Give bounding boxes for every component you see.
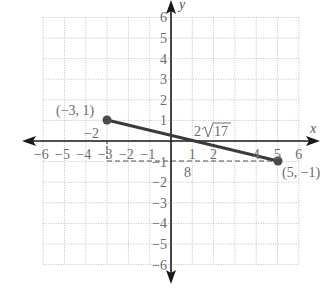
svg-text:2: 2 <box>210 147 217 162</box>
svg-text:−5: −5 <box>55 147 70 162</box>
svg-text:17: 17 <box>214 124 228 139</box>
svg-text:4: 4 <box>253 147 260 162</box>
svg-text:1: 1 <box>189 147 196 162</box>
y-axis-label: y <box>177 0 186 12</box>
svg-text:1: 1 <box>160 113 167 128</box>
svg-text:6: 6 <box>160 10 167 25</box>
svg-text:−4: −4 <box>76 147 91 162</box>
distance-label: 2 17 <box>194 123 231 139</box>
svg-text:2: 2 <box>160 93 167 108</box>
svg-text:−4: −4 <box>152 216 167 231</box>
svg-text:−3: −3 <box>152 196 167 211</box>
svg-text:−6: −6 <box>34 147 49 162</box>
svg-text:−2: −2 <box>119 147 134 162</box>
point-a-label: (−3, 1) <box>56 103 95 119</box>
svg-text:5: 5 <box>274 147 281 162</box>
svg-text:3: 3 <box>160 72 167 87</box>
svg-text:−6: −6 <box>152 258 167 273</box>
coordinate-plane: −6−5−4−3−2−112456 654321−1−2−3−4−5−6 x y… <box>0 0 335 294</box>
svg-text:−1: −1 <box>152 155 167 170</box>
horizontal-leg-label: 8 <box>184 165 191 180</box>
svg-text:6: 6 <box>295 147 302 162</box>
y-axis <box>166 0 176 284</box>
x-axis-label: x <box>309 121 317 136</box>
svg-text:2: 2 <box>194 124 201 139</box>
svg-text:4: 4 <box>160 52 167 67</box>
point-b-label: (5, −1) <box>282 165 321 181</box>
point-a <box>103 116 112 125</box>
vertical-leg-label: −2 <box>84 126 99 141</box>
svg-text:5: 5 <box>160 31 167 46</box>
svg-text:−2: −2 <box>152 175 167 190</box>
svg-text:−3: −3 <box>98 147 113 162</box>
x-tick-labels: −6−5−4−3−2−112456 <box>34 147 303 162</box>
svg-text:−5: −5 <box>152 237 167 252</box>
